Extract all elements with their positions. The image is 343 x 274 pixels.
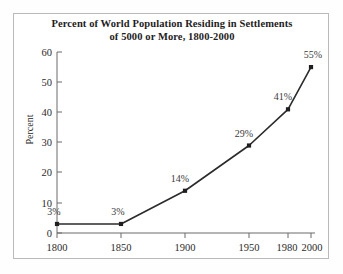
figure-container: Percent of World Population Residing in … xyxy=(0,0,343,274)
y-tick-label: 60 xyxy=(42,47,53,58)
plot-area: 0 10 20 30 40 50 60 1800 1850 1900 1950 … xyxy=(0,0,343,274)
y-tick-label: 30 xyxy=(42,137,53,148)
data-point-label: 29% xyxy=(235,128,253,139)
y-tick-label: 20 xyxy=(42,167,53,178)
x-tick-label: 2000 xyxy=(302,242,323,253)
x-tick-label: 1950 xyxy=(239,242,260,253)
y-tick-label: 0 xyxy=(47,228,52,239)
y-tick-label: 50 xyxy=(42,77,53,88)
data-point-label: 3% xyxy=(111,206,124,217)
data-point-label: 55% xyxy=(304,49,322,60)
data-point-marker xyxy=(119,222,123,226)
data-point-marker xyxy=(183,189,187,193)
data-point-marker xyxy=(286,107,290,111)
x-tick-labels: 1800 1850 1900 1950 1980 2000 xyxy=(47,242,323,253)
y-tick-label: 40 xyxy=(42,107,53,118)
data-point-marker xyxy=(247,143,251,147)
data-point-label: 41% xyxy=(274,91,292,102)
data-point-marker xyxy=(309,65,313,69)
data-point-label: 3% xyxy=(47,206,60,217)
x-tick-label: 1980 xyxy=(277,242,298,253)
x-tick-label: 1800 xyxy=(47,242,68,253)
data-point-label: 14% xyxy=(171,173,189,184)
x-tick-marks xyxy=(57,233,311,238)
x-tick-label: 1850 xyxy=(111,242,132,253)
x-tick-label: 1900 xyxy=(175,242,196,253)
data-point-markers xyxy=(55,65,313,226)
data-point-marker xyxy=(55,222,59,226)
